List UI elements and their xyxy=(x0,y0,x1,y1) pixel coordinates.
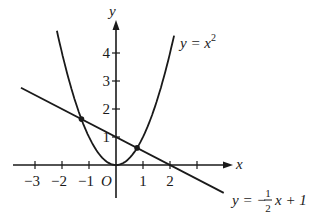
x-tick-label: −2 xyxy=(51,173,67,189)
line-label-prefix: y = − xyxy=(230,192,266,208)
x-tick-label: −1 xyxy=(78,173,94,189)
origin-label: O xyxy=(101,173,112,189)
parabola-label-exponent: 2 xyxy=(211,32,216,43)
y-tick-label: 4 xyxy=(103,45,111,61)
x-axis-label: x xyxy=(235,156,243,172)
figure: −3−2−112 1234 x y O y = x2 y = − 1 2 x +… xyxy=(0,0,316,222)
line-label: y = − 1 2 x + 1 xyxy=(230,187,307,214)
y-axis-label: y xyxy=(107,3,116,19)
intersection-point xyxy=(134,145,140,151)
x-tick-label: 2 xyxy=(166,173,174,189)
y-tick-label: 3 xyxy=(103,73,111,89)
y-axis-arrow-icon xyxy=(113,20,120,30)
x-tick-label: −3 xyxy=(24,173,40,189)
line-label-suffix: x + 1 xyxy=(274,192,307,208)
y-tick-label: 2 xyxy=(103,101,111,117)
y-ticks: 1234 xyxy=(103,45,121,145)
parabola-label: y = x2 xyxy=(178,32,216,51)
parabola-label-main: y = x xyxy=(178,35,211,51)
intersection-point xyxy=(79,116,85,122)
x-tick-label: 1 xyxy=(139,173,147,189)
x-axis-arrow-icon xyxy=(223,162,233,169)
coordinate-plane: −3−2−112 1234 x y O y = x2 y = − 1 2 x +… xyxy=(0,0,316,222)
line-label-denominator: 2 xyxy=(265,202,271,214)
line-label-numerator: 1 xyxy=(265,187,271,199)
